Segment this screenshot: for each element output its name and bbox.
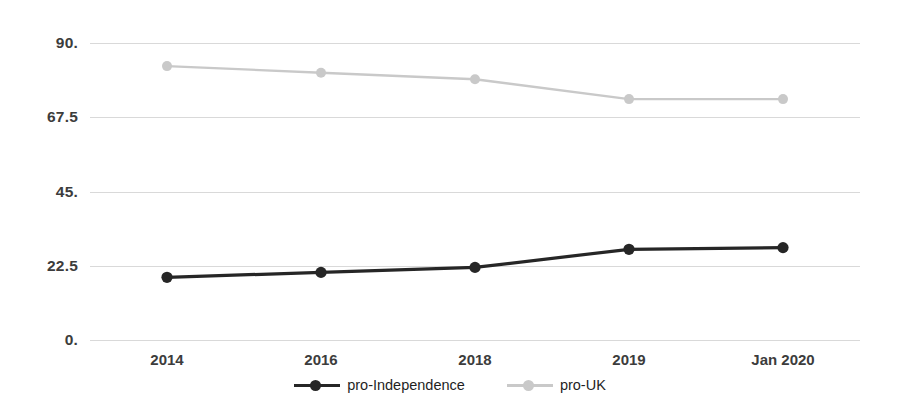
y-axis-tick-label: 67.5 bbox=[47, 109, 78, 125]
legend-label: pro-Independence bbox=[347, 378, 465, 393]
legend-swatch-icon bbox=[294, 378, 340, 392]
x-axis-tick-label: 2014 bbox=[107, 352, 227, 367]
x-axis-tick-label: 2016 bbox=[261, 352, 381, 367]
y-axis-tick-label: 45. bbox=[56, 184, 78, 200]
x-axis-tick-label: Jan 2020 bbox=[723, 352, 843, 367]
legend-marker-icon bbox=[310, 380, 321, 391]
legend-item-pro-independence[interactable]: pro-Independence bbox=[294, 378, 465, 393]
plot-area bbox=[90, 43, 860, 340]
x-axis-tick-label: 2018 bbox=[415, 352, 535, 367]
legend-marker-icon bbox=[523, 380, 534, 391]
legend-swatch-icon bbox=[507, 378, 553, 392]
y-axis-tick-label: 90. bbox=[56, 35, 78, 51]
y-axis-tick-label: 0. bbox=[65, 332, 78, 348]
x-axis-tick-label: 2019 bbox=[569, 352, 689, 367]
line-chart: 0.22.545.67.590. 2014201620182019Jan 202… bbox=[0, 0, 900, 413]
legend-item-pro-uk[interactable]: pro-UK bbox=[507, 378, 606, 393]
chart-legend: pro-Independencepro-UK bbox=[0, 378, 900, 393]
y-axis-tick-label: 22.5 bbox=[47, 258, 78, 274]
legend-label: pro-UK bbox=[560, 378, 606, 393]
gridline bbox=[90, 340, 860, 341]
